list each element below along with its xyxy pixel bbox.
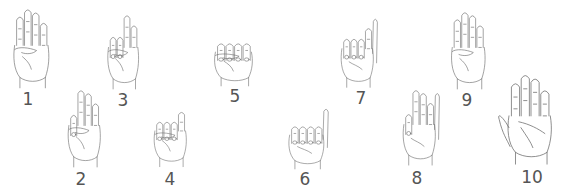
hand-sign-9-icon	[443, 8, 491, 94]
hand-sign-3-icon	[100, 8, 144, 94]
hand-sign-2-icon	[60, 86, 106, 172]
number-label: 10	[517, 169, 547, 186]
hand-sign-7-icon	[333, 12, 379, 92]
hand-sign-6-icon	[280, 103, 330, 173]
hand-sign-1-icon	[5, 5, 55, 93]
number-label: 1	[13, 91, 43, 108]
number-label: 5	[220, 88, 250, 105]
hand-sign-4-icon	[146, 97, 192, 171]
number-label: 8	[402, 170, 432, 187]
number-label: 2	[66, 171, 96, 188]
number-label: 4	[155, 171, 185, 188]
number-label: 9	[452, 92, 482, 109]
number-label: 7	[346, 90, 376, 107]
hand-signs-diagram: 12345678910	[0, 0, 570, 189]
hand-sign-5-icon	[205, 20, 259, 90]
hand-sign-8-icon	[395, 86, 441, 170]
number-label: 6	[290, 171, 320, 188]
hand-sign-10-icon	[497, 70, 559, 170]
number-label: 3	[108, 92, 138, 109]
